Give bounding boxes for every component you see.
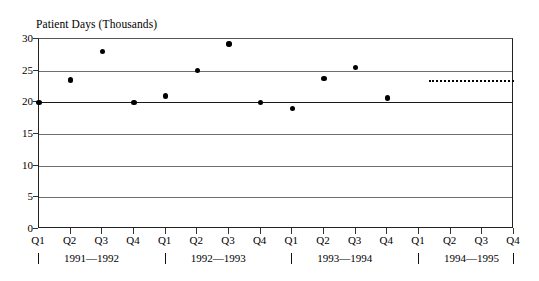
gridline [39, 166, 512, 167]
data-point [68, 77, 73, 82]
data-point [36, 100, 41, 105]
data-point [131, 100, 136, 105]
gridline [39, 134, 512, 135]
gridline [39, 197, 512, 198]
data-point [385, 95, 390, 100]
y-axis-ticks [0, 38, 38, 228]
data-point [321, 76, 326, 81]
gridline [39, 71, 512, 72]
data-point [163, 93, 168, 98]
gridline [39, 102, 512, 103]
x-axis-labels: Q1Q2Q3Q4Q1Q2Q3Q4Q1Q2Q3Q4Q1Q2Q3Q4 [0, 234, 539, 250]
projection-line [429, 80, 515, 82]
x-axis-quarter-label: Q4 [493, 234, 533, 247]
data-point [353, 65, 358, 70]
data-point [258, 100, 263, 105]
data-point [290, 106, 295, 111]
plot-area [38, 38, 513, 228]
fiscal-year-label: 1991—1992 [32, 252, 152, 265]
chart-title: Patient Days (Thousands) [36, 18, 157, 31]
fiscal-year-label: 1993—1994 [285, 252, 405, 265]
fiscal-year-band: 1991—19921992—19931993—19941994—1995 [0, 252, 539, 270]
fiscal-year-separator [513, 253, 514, 264]
data-point [100, 49, 105, 54]
fiscal-year-label: 1992—1993 [158, 252, 278, 265]
patient-days-chart: Patient Days (Thousands) 051015202530 Q1… [0, 0, 539, 281]
data-point [226, 41, 231, 46]
data-point [195, 68, 200, 73]
